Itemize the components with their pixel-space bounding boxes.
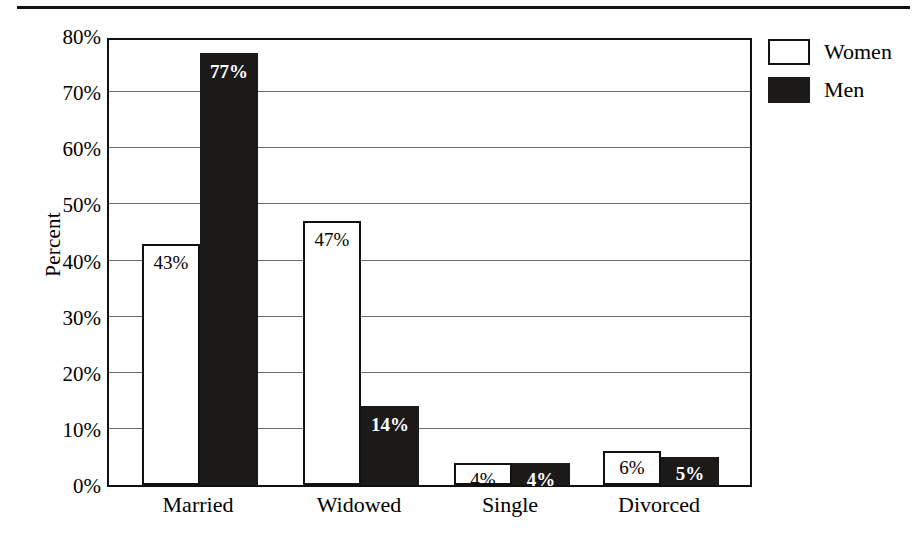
y-axis-tick-label: 50% (37, 195, 101, 216)
y-axis-tick-label: 80% (37, 27, 101, 48)
bar-divorced-women[interactable]: 6% (603, 451, 661, 485)
x-axis-label-married: Married (110, 492, 286, 518)
legend-label-men: Men (824, 79, 864, 101)
y-axis-tick-label: 40% (37, 252, 101, 273)
bar-value-label: 77% (201, 62, 257, 81)
y-axis-tick-label: 20% (37, 364, 101, 385)
bar-value-label: 6% (605, 458, 659, 477)
y-axis-tick-label: 10% (37, 420, 101, 441)
black-square-swatch-icon (768, 77, 810, 103)
legend-item-men[interactable]: Men (768, 72, 908, 107)
y-axis-tick-label: 70% (37, 83, 101, 104)
y-axis-tick-labels: 0%10%20%30%40%50%60%70%80% (31, 38, 101, 487)
bar-chart-figure: Percent 0%10%20%30%40%50%60%70%80% 43%77… (0, 0, 923, 541)
bar-married-women[interactable]: 43% (142, 244, 200, 485)
bar-single-men[interactable]: 4% (512, 463, 570, 485)
y-axis-tick-label: 0% (37, 476, 101, 497)
bar-single-women[interactable]: 4% (454, 463, 512, 485)
bar-widowed-men[interactable]: 14% (361, 406, 419, 485)
white-square-swatch-icon (768, 39, 810, 65)
chart-legend: Women Men (768, 34, 908, 110)
bar-married-men[interactable]: 77% (200, 53, 258, 485)
bar-value-label: 14% (362, 415, 418, 434)
bar-value-label: 43% (144, 253, 198, 272)
bar-widowed-women[interactable]: 47% (303, 221, 361, 485)
bar-value-label: 4% (456, 470, 510, 489)
legend-item-women[interactable]: Women (768, 34, 908, 69)
y-axis-tick-label: 60% (37, 139, 101, 160)
plot-area: 43%77%47%14%4%4%6%5% (107, 38, 752, 487)
y-axis-tick-label: 30% (37, 308, 101, 329)
bar-divorced-men[interactable]: 5% (661, 457, 719, 485)
bar-value-label: 5% (662, 464, 718, 483)
x-axis-category-labels: MarriedWidowedSingleDivorced (107, 492, 752, 526)
x-axis-label-widowed: Widowed (271, 492, 447, 518)
bar-value-label: 47% (305, 230, 359, 249)
legend-label-women: Women (824, 41, 892, 63)
top-horizontal-rule (17, 6, 910, 9)
bar-value-label: 4% (513, 470, 569, 489)
x-axis-label-divorced: Divorced (571, 492, 747, 518)
